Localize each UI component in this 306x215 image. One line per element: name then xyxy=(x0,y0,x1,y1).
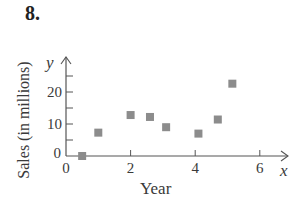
data-point-square-icon xyxy=(162,123,170,131)
data-point-square-icon xyxy=(127,111,135,119)
data-point-square-icon xyxy=(228,80,236,88)
y-tick-label: 10 xyxy=(47,116,62,132)
data-point-square-icon xyxy=(214,116,222,124)
y-variable-label: y xyxy=(44,53,54,72)
x-tick-label: 6 xyxy=(256,160,264,176)
x-tick-label: 0 xyxy=(62,160,70,176)
y-tick-label: 0 xyxy=(54,145,62,161)
x-variable-label: x xyxy=(279,161,288,180)
x-tick-label: 2 xyxy=(127,160,135,176)
scatter-plot: 024601020 x y xyxy=(0,0,306,215)
data-point-square-icon xyxy=(78,152,86,160)
data-point-square-icon xyxy=(194,130,202,138)
x-tick-label: 4 xyxy=(191,160,199,176)
y-tick-label: 20 xyxy=(47,84,62,100)
tick-marks xyxy=(66,76,260,156)
axes xyxy=(61,57,288,161)
tick-labels: 024601020 xyxy=(47,84,264,176)
data-point-square-icon xyxy=(94,129,102,137)
data-points xyxy=(78,80,236,160)
data-point-square-icon xyxy=(146,113,154,121)
